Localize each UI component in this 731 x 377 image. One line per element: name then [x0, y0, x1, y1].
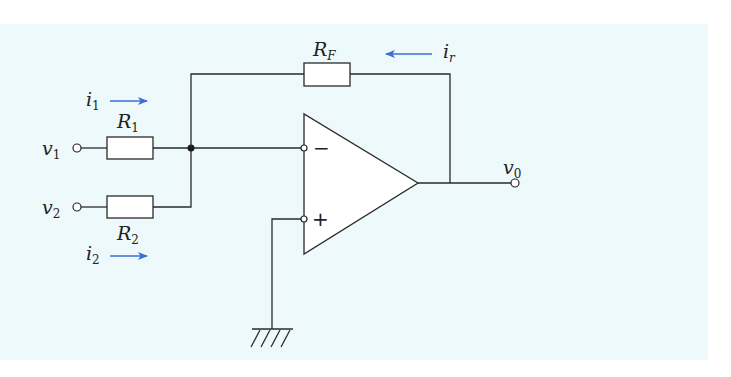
ground-icon	[251, 329, 293, 347]
plus-sign: +	[312, 207, 329, 231]
label-v2: v2	[42, 196, 60, 221]
noninverting-input-node	[301, 216, 307, 222]
circuit-diagram: v1 R1 i1 v2 R2 i2 RF	[0, 0, 731, 377]
minus-sign: −	[313, 136, 330, 160]
label-r2: R2	[116, 222, 139, 247]
label-rf: RF	[312, 38, 336, 63]
label-v0: v0	[503, 156, 521, 181]
label-ir: ir	[443, 40, 456, 65]
terminal-v1	[73, 144, 81, 152]
input-2-branch: v2 R2 i2	[42, 148, 191, 267]
resistor-r2	[107, 196, 153, 218]
output-branch: v0	[418, 156, 521, 187]
op-amp-triangle	[304, 114, 418, 254]
input-1-branch: v1 R1 i1	[42, 88, 304, 162]
label-i1: i1	[86, 88, 100, 113]
resistor-r1	[107, 137, 153, 159]
label-i2: i2	[86, 242, 100, 267]
resistor-rf	[304, 63, 350, 86]
inverting-input-node	[301, 145, 307, 151]
terminal-v2	[73, 203, 81, 211]
label-v1: v1	[42, 137, 60, 162]
ground-branch	[251, 219, 301, 347]
label-r1: R1	[116, 110, 139, 135]
op-amp: − +	[301, 114, 418, 254]
